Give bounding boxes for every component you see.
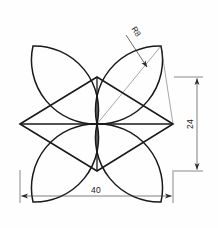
- radius-leader-group: R8: [126, 25, 147, 67]
- radius-dimension-label: R8: [130, 25, 143, 39]
- center-axes-group: [20, 77, 173, 171]
- construction-line-2: [161, 46, 173, 124]
- height-dimension-group: 24: [174, 77, 203, 171]
- technical-drawing-page: 24 40 R8: [0, 0, 218, 228]
- petal-bottom-left-shape: [31, 124, 98, 202]
- width-dimension-label: 40: [91, 185, 101, 195]
- width-dimension-group: 40: [20, 170, 173, 203]
- construction-line-1: [97, 46, 161, 124]
- petal-bottom-right-shape: [95, 124, 162, 202]
- radius-leader-line: [126, 35, 147, 67]
- height-dimension-label: 24: [185, 119, 195, 129]
- drawing-canvas: 24 40 R8: [0, 0, 218, 228]
- petal-top-left-shape: [31, 46, 98, 124]
